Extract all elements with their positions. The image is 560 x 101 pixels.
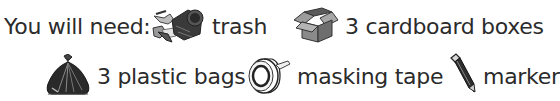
item-label-cardboard-boxes: 3 cardboard boxes — [345, 16, 544, 38]
plastic-bag-icon — [44, 54, 92, 96]
marker-icon — [448, 52, 478, 96]
item-label-plastic-bags: 3 plastic bags — [97, 66, 246, 88]
item-label-marker: marker — [483, 66, 560, 88]
supplies-row-1: You will need: trash — [0, 0, 550, 50]
trash-can-icon — [150, 6, 208, 44]
masking-tape-icon — [244, 55, 292, 95]
item-label-trash: trash — [212, 16, 267, 38]
you-will-need-label: You will need: — [4, 16, 150, 38]
cardboard-box-icon — [292, 6, 340, 44]
supplies-row-2: 3 plastic bags masking tape marker — [0, 50, 550, 100]
item-label-masking-tape: masking tape — [297, 66, 443, 88]
